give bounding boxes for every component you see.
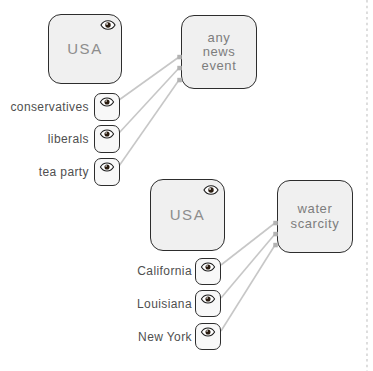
line-louisiana-water [221, 234, 275, 298]
node-label: USA [170, 207, 206, 224]
eye-icon[interactable] [203, 185, 219, 195]
observer-box-liberals[interactable] [94, 125, 120, 153]
node-label: USA [67, 41, 103, 58]
line-teaparty-news [119, 80, 179, 166]
observer-label-conservatives: conservatives [10, 100, 89, 114]
eye-icon[interactable] [100, 162, 115, 172]
eye-icon[interactable] [100, 20, 116, 30]
observer-box-tea-party[interactable] [94, 158, 120, 186]
eye-icon[interactable] [201, 262, 216, 272]
observer-box-conservatives[interactable] [94, 93, 120, 121]
observer-label-louisiana: Louisiana [137, 297, 192, 311]
observer-label-tea-party: tea party [39, 165, 89, 179]
line-conservatives-news [119, 57, 179, 100]
observer-box-louisiana[interactable] [195, 290, 221, 317]
eye-icon[interactable] [201, 327, 216, 337]
eye-icon[interactable] [100, 97, 115, 107]
node-usa-water-group[interactable]: USA [150, 179, 225, 251]
line-liberals-news [119, 68, 179, 133]
node-usa-news-group[interactable]: USA [48, 14, 122, 84]
node-label: water scarcity [291, 202, 340, 231]
node-any-news-event[interactable]: any news event [181, 15, 257, 89]
eye-icon[interactable] [201, 294, 216, 304]
observer-box-new-york[interactable] [195, 323, 221, 350]
eye-icon[interactable] [100, 129, 115, 139]
observer-box-california[interactable] [195, 258, 221, 285]
observer-label-new-york: New York [138, 330, 192, 344]
observer-label-liberals: liberals [48, 132, 89, 146]
observer-label-california: California [137, 264, 192, 278]
line-newyork-water [221, 245, 275, 331]
line-california-water [221, 223, 275, 265]
node-label: any news event [202, 31, 237, 74]
diagram-canvas: USA any news event conservatives liberal… [0, 0, 373, 371]
node-water-scarcity[interactable]: water scarcity [277, 180, 353, 253]
